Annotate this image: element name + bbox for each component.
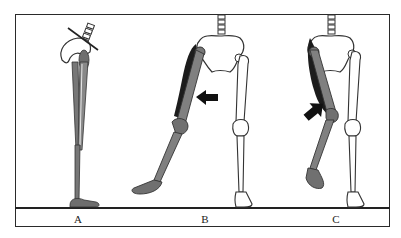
tibia-icon <box>349 136 356 192</box>
shaded-foot-icon <box>132 180 162 194</box>
spine-icon <box>328 15 335 34</box>
shaded-tibia-icon <box>154 132 182 182</box>
femur-icon <box>348 51 361 122</box>
panel-label-a: A <box>74 213 82 225</box>
panel-c-figure <box>300 15 364 207</box>
panel-b-figure <box>132 15 252 207</box>
lower-leg-icon <box>75 145 80 200</box>
femur-icon <box>236 55 249 122</box>
spine-icon <box>218 15 225 34</box>
knee-icon <box>345 120 361 137</box>
tibia-icon <box>237 136 244 192</box>
panel-a-figure <box>61 23 99 207</box>
foot-icon <box>235 192 252 207</box>
foot-icon <box>70 198 99 207</box>
knee-icon <box>233 120 249 137</box>
foot-icon <box>347 192 364 207</box>
panel-label-c: C <box>332 213 339 225</box>
panel-label-b: B <box>201 213 208 225</box>
shaded-foot-icon <box>306 168 324 189</box>
arrow-left-icon <box>196 90 218 105</box>
shaded-tibia-icon <box>310 120 334 170</box>
anatomy-diagram <box>0 0 401 238</box>
